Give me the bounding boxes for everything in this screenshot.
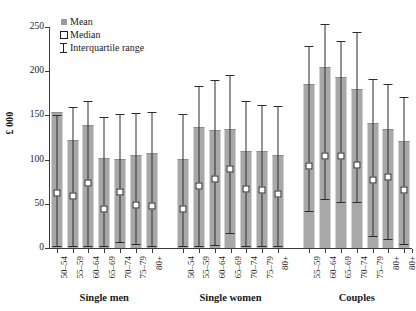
bar-group[interactable] (175, 27, 191, 248)
bar-group[interactable] (238, 27, 254, 248)
bar-group[interactable] (302, 27, 318, 248)
iqr-whisker-line (356, 32, 357, 202)
bar-group[interactable] (349, 27, 365, 248)
x-axis-tick-label: 80+ (392, 256, 401, 270)
iqr-whisker-line (214, 80, 215, 245)
bar-group[interactable] (254, 27, 270, 248)
iqr-whisker-line (404, 97, 405, 244)
x-axis-tick-label: 80+ (155, 256, 164, 270)
x-axis-tick-mark (388, 249, 389, 253)
x-axis-tick-mark (73, 249, 74, 253)
bar-group[interactable] (191, 27, 207, 248)
bar-group[interactable] (112, 27, 128, 248)
iqr-whisker-cap-top (116, 114, 125, 115)
bar-group[interactable] (223, 27, 239, 248)
iqr-whisker-icon (57, 43, 70, 53)
iqr-whisker-cap-bottom (68, 246, 77, 247)
iqr-whisker-cap-top (305, 46, 314, 47)
iqr-whisker-cap-bottom (147, 246, 156, 247)
bar-group[interactable] (396, 27, 412, 248)
median-marker (227, 165, 234, 172)
iqr-whisker-cap-bottom (352, 202, 361, 203)
bar-group[interactable] (270, 27, 286, 248)
mean-swatch-icon (57, 19, 70, 25)
bar-group[interactable] (333, 27, 349, 248)
x-axis-tick-label: 75–79 (376, 256, 385, 279)
bar-group[interactable] (81, 27, 97, 248)
legend-label-iqr: Interquartile range (70, 43, 144, 53)
iqr-whisker-line (56, 115, 57, 247)
y-axis-tick-label: 200 (0, 67, 44, 77)
x-axis-tick-label: 50–54 (187, 256, 196, 279)
iqr-whisker-line (230, 75, 231, 233)
median-marker (306, 163, 313, 170)
median-marker (211, 175, 218, 182)
iqr-whisker-cap-top (400, 97, 409, 98)
median-marker (353, 162, 360, 169)
x-axis-tick-mark (88, 249, 89, 253)
iqr-whisker-cap-bottom (52, 246, 61, 247)
iqr-whisker-cap-top (368, 79, 377, 80)
bar-group[interactable] (128, 27, 144, 248)
bar-group[interactable] (317, 27, 333, 248)
median-marker (195, 182, 202, 189)
x-axis-tick-mark (325, 249, 326, 253)
group-title: Single women (199, 292, 261, 303)
iqr-whisker-cap-bottom (84, 246, 93, 247)
x-axis-tick-mark (262, 249, 263, 253)
x-axis-tick-mark (104, 249, 105, 253)
iqr-whisker-line (372, 79, 373, 235)
iqr-whisker-cap-bottom (305, 211, 314, 212)
iqr-whisker-cap-top (147, 112, 156, 113)
iqr-whisker-cap-top (179, 114, 188, 115)
bar-group[interactable] (96, 27, 112, 248)
median-marker (180, 205, 187, 212)
x-axis-tick-label: 60–64 (329, 256, 338, 279)
iqr-whisker-line (72, 107, 73, 247)
x-axis-tick-label: 65–69 (344, 256, 353, 279)
legend-label-mean: Mean (70, 17, 93, 27)
median-marker (69, 193, 76, 200)
x-axis-tick-mark (404, 249, 405, 253)
iqr-whisker-line (325, 24, 326, 199)
y-axis-tick-label: 150 (0, 111, 44, 121)
bar-group[interactable] (207, 27, 223, 248)
iqr-whisker-cap-bottom (116, 242, 125, 243)
x-axis-tick-label: 70–74 (360, 256, 369, 279)
x-axis-tick-mark (373, 249, 374, 253)
x-axis-tick-label: 55–59 (76, 256, 85, 279)
iqr-whisker-line (340, 41, 341, 202)
iqr-whisker-cap-bottom (384, 239, 393, 240)
chart-legend: Mean Median Interquartile range (57, 16, 144, 55)
iqr-whisker-cap-bottom (273, 246, 282, 247)
x-axis-tick-label: 70–74 (124, 256, 133, 279)
legend-item-median: Median (57, 29, 144, 41)
x-axis-tick-mark (57, 249, 58, 253)
median-swatch-icon (57, 31, 70, 39)
bar-group[interactable] (365, 27, 381, 248)
iqr-whisker-cap-top (194, 86, 203, 87)
x-axis-tick-label: 80+ (408, 256, 416, 270)
bar-group[interactable] (49, 27, 65, 248)
iqr-whisker-cap-top (68, 107, 77, 108)
x-axis-tick-mark (246, 249, 247, 253)
iqr-whisker-line (151, 112, 152, 246)
x-axis-tick-mark (357, 249, 358, 253)
iqr-whisker-line (88, 101, 89, 246)
iqr-whisker-cap-top (226, 75, 235, 76)
median-marker (337, 152, 344, 159)
iqr-whisker-line (183, 114, 184, 247)
plot-area (49, 27, 412, 248)
bar-group[interactable] (380, 27, 396, 248)
iqr-whisker-line (388, 84, 389, 240)
y-axis-tick-label: 50 (0, 199, 44, 209)
bar-group[interactable] (144, 27, 160, 248)
y-axis-tick-label: 250 (0, 22, 44, 32)
x-axis-tick-mark (412, 249, 413, 253)
legend-item-mean: Mean (57, 16, 144, 28)
bar-group[interactable] (65, 27, 81, 248)
median-marker (322, 152, 329, 159)
iqr-whisker-cap-top (384, 84, 393, 85)
median-marker (117, 188, 124, 195)
x-axis-tick-label: 75–79 (139, 256, 148, 279)
